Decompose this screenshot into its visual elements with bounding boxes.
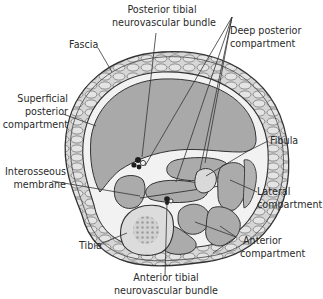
label-line: Lateral xyxy=(257,185,322,198)
label-deep-posterior-compartment: Deep posterior compartment xyxy=(230,24,301,50)
leg-cross-section-diagram: Posterior tibial neurovascular bundle Fa… xyxy=(0,0,323,299)
label-line: membrane xyxy=(0,178,66,191)
label-line: Anterior xyxy=(240,234,305,247)
label-anterior-compartment: Anterior compartment xyxy=(240,234,305,260)
label-anterior-tibial-nv-bundle: Anterior tibial neurovascular bundle xyxy=(110,271,222,297)
label-line: Posterior tibial xyxy=(112,3,212,16)
label-line: neurovascular bundle xyxy=(112,16,212,29)
label-tibia: Tibia xyxy=(79,239,102,252)
label-lateral-compartment: Lateral compartment xyxy=(257,185,322,211)
label-line: compartment xyxy=(240,247,305,260)
label-line: neurovascular bundle xyxy=(110,284,222,297)
label-superficial-posterior-compartment: Superficial posterior compartment xyxy=(0,92,68,131)
label-line: compartment xyxy=(257,198,322,211)
label-line: Deep posterior xyxy=(230,24,301,37)
label-fibula: Fibula xyxy=(270,134,298,147)
label-posterior-tibial-nv-bundle: Posterior tibial neurovascular bundle xyxy=(112,3,212,29)
label-line: compartment xyxy=(230,37,301,50)
label-fascia: Fascia xyxy=(69,38,98,51)
label-line: Anterior tibial xyxy=(110,271,222,284)
label-line: compartment xyxy=(0,118,68,131)
label-line: posterior xyxy=(0,105,68,118)
label-line: Interosseous xyxy=(0,165,66,178)
label-line: Superficial xyxy=(0,92,68,105)
label-interosseous-membrane: Interosseous membrane xyxy=(0,165,66,191)
